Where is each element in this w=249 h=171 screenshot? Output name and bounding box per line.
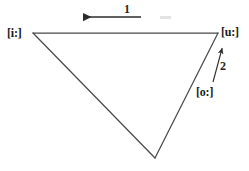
- triangle-edge-left: [33, 33, 155, 158]
- vowel-label-back-close: [u:]: [221, 26, 239, 38]
- shift-arrow-2-label: 2: [220, 60, 226, 72]
- shift-arrow-1-label: 1: [124, 3, 130, 15]
- scan-artifact: [160, 16, 171, 19]
- vowel-triangle-figure: [i:] [u:] [o:] 1 2: [0, 0, 249, 171]
- vowel-label-back-mid: [o:]: [196, 86, 213, 98]
- vowel-label-front-close: [i:]: [7, 27, 22, 39]
